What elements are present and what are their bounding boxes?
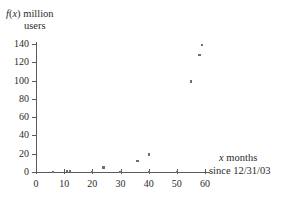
- data-point: [198, 54, 200, 56]
- y-tick-label: 140: [3, 39, 29, 49]
- y-tick: [32, 81, 37, 82]
- y-tick-label: 0: [3, 167, 29, 177]
- data-point: [69, 170, 71, 172]
- x-tick: [36, 169, 37, 174]
- x-axis-line: [36, 172, 210, 173]
- x-axis-label: x months since 12/31/03: [209, 152, 271, 177]
- y-tick-label: 80: [3, 94, 29, 104]
- y-axis-label-line1: f(x) million: [6, 8, 54, 19]
- y-tick: [32, 117, 37, 118]
- italic-x-axis: x: [219, 152, 224, 163]
- data-point: [91, 171, 93, 173]
- x-tick-label: 20: [80, 179, 104, 189]
- x-tick: [205, 169, 206, 174]
- y-axis-label-line2: users: [6, 20, 54, 32]
- data-point: [136, 160, 138, 162]
- data-point: [201, 44, 203, 46]
- y-axis-label: f(x) million users: [6, 8, 54, 32]
- y-tick-label: 100: [3, 76, 29, 86]
- x-axis-label-line2: since 12/31/03: [209, 165, 271, 178]
- x-tick-label: 10: [52, 179, 76, 189]
- data-point: [148, 171, 150, 173]
- y-tick: [32, 135, 37, 136]
- italic-f: f: [6, 8, 9, 19]
- data-point: [190, 80, 192, 82]
- x-tick-label: 50: [165, 179, 189, 189]
- y-tick: [32, 44, 37, 45]
- y-tick-label: 20: [3, 149, 29, 159]
- y-tick-label: 60: [3, 112, 29, 122]
- data-point: [119, 171, 121, 173]
- data-point: [52, 171, 54, 173]
- y-tick: [32, 154, 37, 155]
- x-tick-label: 0: [24, 179, 48, 189]
- y-tick: [32, 62, 37, 63]
- y-tick-label: 120: [3, 57, 29, 67]
- x-tick-label: 30: [109, 179, 133, 189]
- data-point: [176, 171, 178, 173]
- x-tick-label: 60: [193, 179, 217, 189]
- x-axis-label-line1: x months: [209, 152, 271, 165]
- data-point: [148, 153, 150, 155]
- y-tick: [32, 99, 37, 100]
- x-tick-label: 40: [137, 179, 161, 189]
- y-tick-label: 40: [3, 130, 29, 140]
- scatter-chart: f(x) million users x months since 12/31/…: [0, 0, 283, 200]
- italic-x: x: [12, 8, 17, 19]
- data-point: [102, 166, 104, 168]
